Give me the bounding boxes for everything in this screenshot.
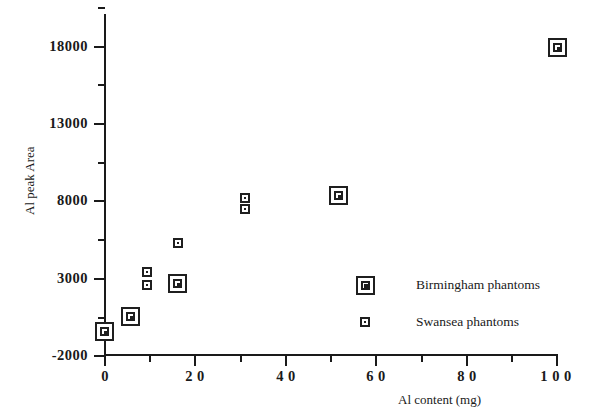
y-tick-label--2000: -2000 [20,347,88,364]
x-major-tick-60 [375,356,377,366]
data-point-birmingham [548,38,567,57]
x-major-tick-80 [466,356,468,366]
legend-entry-swansea: Swansea phantoms [352,311,519,333]
x-minor-tick-10 [149,356,151,362]
x-axis-title: Al content (mg) [398,392,481,408]
x-tick-label-20: 2 0 [165,368,225,385]
legend-marker-large-square-icon [352,274,378,296]
x-major-tick-100 [556,356,558,366]
y-axis-line [104,14,106,356]
y-major-tick-8000 [94,200,105,202]
x-tick-label-40: 4 0 [256,368,316,385]
x-tick-label-100: 1 0 0 [524,368,588,385]
x-minor-tick-50 [330,356,332,362]
data-point-swansea [173,238,183,248]
x-major-tick-0 [104,356,106,366]
x-major-tick-40 [285,356,287,366]
x-minor-tick-70 [421,356,423,362]
y-major-tick-3000 [94,278,105,280]
data-point-birmingham [95,322,114,341]
data-point-birmingham [168,274,187,293]
y-minor-tick-15500 [98,84,105,86]
y-major-tick-13000 [94,123,105,125]
scatter-plot-figure: 18000 13000 8000 3000 -2000 0 2 0 4 0 6 … [0,0,598,419]
x-tick-label-80: 8 0 [437,368,497,385]
y-tick-label-18000: 18000 [20,38,88,55]
y-tick-label-3000: 3000 [20,270,88,287]
data-point-birmingham [121,307,140,326]
data-point-swansea [240,193,250,203]
y-minor-tick-5500 [98,239,105,241]
legend-entry-birmingham: Birmingham phantoms [352,274,540,296]
data-point-swansea [142,280,152,290]
y-tick-label-13000: 13000 [20,115,88,132]
legend-label-swansea: Swansea phantoms [416,314,519,330]
legend-label-birmingham: Birmingham phantoms [416,277,540,293]
y-minor-tick-20500 [98,7,105,9]
y-minor-tick-500 [98,317,105,319]
x-tick-label-60: 6 0 [346,368,406,385]
x-minor-tick-90 [511,356,513,362]
y-major-tick-18000 [94,46,105,48]
y-minor-tick-10500 [98,162,105,164]
x-tick-label-0: 0 [75,368,135,385]
data-point-swansea [142,267,152,277]
legend-marker-small-square-icon [352,311,378,333]
data-point-swansea [240,204,250,214]
x-minor-tick-30 [240,356,242,362]
y-axis-title: Al peak Area [22,146,38,215]
data-point-birmingham [329,186,348,205]
x-major-tick-20 [194,356,196,366]
